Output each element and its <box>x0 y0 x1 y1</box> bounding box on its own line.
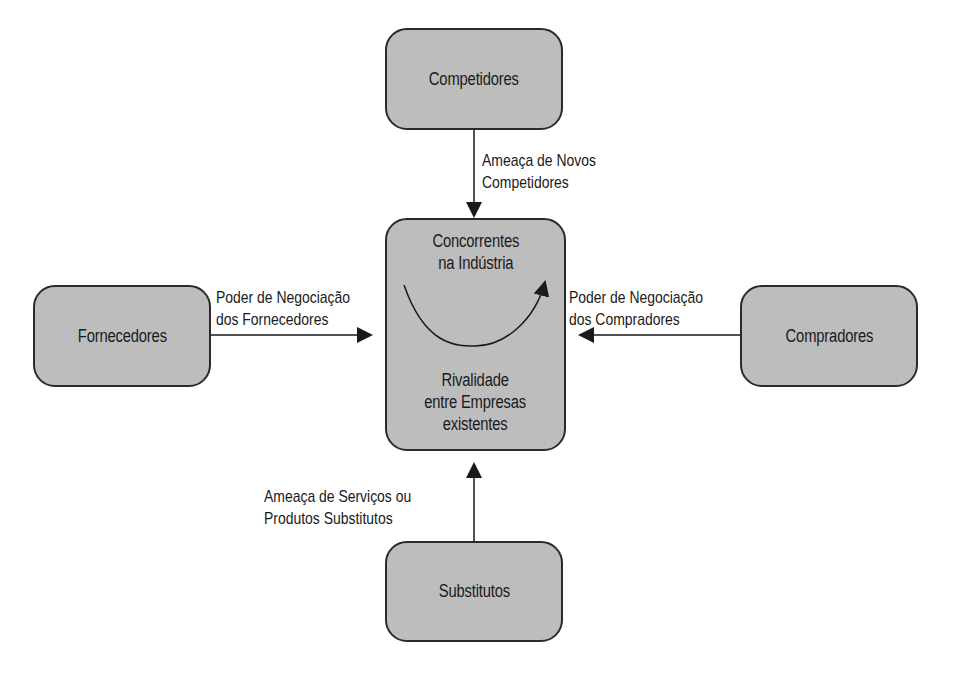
label-poder-negociacao-compradores: Poder de Negociação dos Compradores <box>569 287 703 331</box>
node-concorrentes-na-industria: Concorrentes na Indústria Rivalidade ent… <box>385 218 566 451</box>
label-ameaca-novos-competidores: Ameaça de Novos Competidores <box>482 150 596 194</box>
node-label: Substitutos <box>438 581 509 602</box>
node-label: Compradores <box>785 326 873 347</box>
node-substitutos: Substitutos <box>385 541 563 642</box>
label-ameaca-substitutos: Ameaça de Serviços ou Produtos Substitut… <box>264 486 411 530</box>
center-bottom-text: Rivalidade entre Empresas existentes <box>413 369 537 435</box>
node-fornecedores: Fornecedores <box>33 285 211 387</box>
label-poder-negociacao-fornecedores: Poder de Negociação dos Fornecedores <box>216 287 350 331</box>
center-top-text: Concorrentes na Indústria <box>423 230 529 274</box>
node-compradores: Compradores <box>740 285 918 387</box>
node-competidores: Competidores <box>385 28 563 130</box>
node-label: Fornecedores <box>77 326 166 347</box>
node-label: Competidores <box>429 69 519 90</box>
